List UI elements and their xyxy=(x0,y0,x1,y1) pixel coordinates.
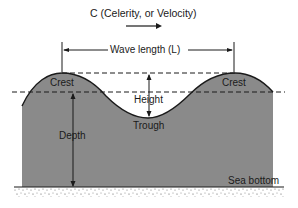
velocity-arrow xyxy=(126,23,162,29)
velocity-label: C (Celerity, or Velocity) xyxy=(90,8,197,19)
crest-left-label: Crest xyxy=(50,78,74,88)
trough-label: Trough xyxy=(133,121,164,131)
height-label: Height xyxy=(134,95,163,105)
wavelength-label: Wave length (L) xyxy=(110,45,180,55)
depth-label: Depth xyxy=(59,131,86,141)
crest-right-label: Crest xyxy=(222,78,246,88)
sea-bottom-sediment xyxy=(14,188,284,197)
sea-bottom-label: Sea bottom xyxy=(228,176,279,186)
